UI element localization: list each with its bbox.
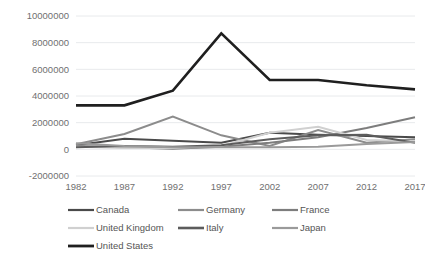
legend-label: Germany — [206, 204, 245, 215]
x-axis-tick-label: 1992 — [162, 181, 183, 192]
y-axis-tick-label: 2000000 — [32, 117, 69, 128]
legend-item[interactable]: Canada — [68, 204, 130, 215]
legend-label: France — [300, 204, 330, 215]
legend-item[interactable]: France — [272, 204, 330, 215]
x-axis-tick-label: 2002 — [259, 181, 280, 192]
legend-item[interactable]: United Kingdom — [68, 222, 164, 233]
y-axis-tick-label: 0 — [64, 144, 69, 155]
x-axis-tick-label: 1987 — [114, 181, 135, 192]
y-axis-tick-label: 10000000 — [27, 10, 69, 21]
y-axis-tick-label: -2000000 — [29, 170, 69, 181]
legend-item[interactable]: Italy — [178, 222, 224, 233]
y-axis-tick-label: 8000000 — [32, 37, 69, 48]
y-axis-tick-label: 4000000 — [32, 90, 69, 101]
legend-item[interactable]: United States — [68, 240, 153, 251]
line-chart: 1000000080000006000000400000020000000-20… — [0, 0, 425, 270]
x-axis-tick-label: 2007 — [308, 181, 329, 192]
legend-item[interactable]: Japan — [272, 222, 326, 233]
x-axis-tick-label: 2012 — [356, 181, 377, 192]
legend-label: United Kingdom — [96, 222, 164, 233]
x-axis-tick-label: 2017 — [404, 181, 425, 192]
legend-label: Japan — [300, 222, 326, 233]
legend-label: Italy — [206, 222, 224, 233]
chart-legend: CanadaGermanyFranceUnited KingdomItalyJa… — [68, 204, 330, 251]
legend-label: United States — [96, 240, 153, 251]
x-axis-tick-label: 1982 — [65, 181, 86, 192]
legend-label: Canada — [96, 204, 130, 215]
legend-item[interactable]: Germany — [178, 204, 245, 215]
y-axis-tick-label: 6000000 — [32, 64, 69, 75]
chart-canvas: 1000000080000006000000400000020000000-20… — [0, 0, 425, 270]
x-axis-tick-label: 1997 — [211, 181, 232, 192]
